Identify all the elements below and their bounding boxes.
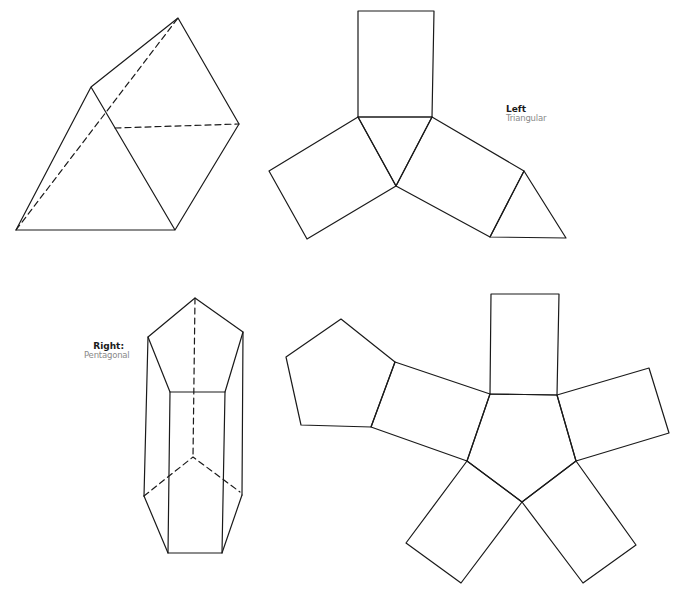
label-left-triangular: Left Triangular — [506, 104, 546, 124]
net-left-rectangle — [371, 362, 490, 461]
net-top-rectangle — [490, 294, 559, 395]
net-right-rectangle — [557, 368, 669, 461]
diagram-canvas — [0, 0, 681, 597]
net-bottom-left-rectangle — [406, 461, 522, 583]
net-bottom-right-rectangle — [522, 461, 636, 583]
label-right-pentagonal: Right: Pentagonal — [84, 341, 124, 361]
triangular-prism-net — [269, 11, 566, 239]
net-end-pentagon — [286, 319, 395, 427]
label-right-subtitle: Pentagonal — [84, 351, 124, 361]
pentagonal-prism-net — [286, 294, 669, 583]
net-center-triangle — [358, 117, 432, 186]
net-left-rectangle — [269, 117, 396, 239]
triangular-prism-3d — [16, 18, 239, 230]
net-end-triangle — [490, 171, 566, 238]
net-center-pentagon — [467, 394, 576, 502]
label-left-subtitle: Triangular — [506, 114, 546, 124]
net-right-rectangle — [396, 117, 524, 237]
pentagonal-prism-3d — [144, 298, 243, 553]
net-top-rectangle — [358, 11, 434, 117]
